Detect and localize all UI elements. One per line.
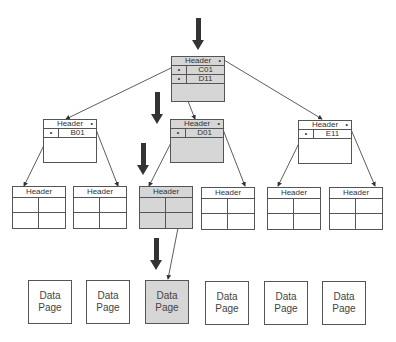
pointer-dot-icon: • (171, 129, 186, 137)
node-key-row: • E11 (299, 130, 351, 139)
arrow-down-icon (150, 260, 162, 270)
data-page-label: Data (333, 291, 354, 302)
data-page: DataPage (28, 280, 72, 324)
leaf-grid (13, 198, 65, 228)
pointer-dot-icon: • (172, 66, 187, 74)
data-page: DataPage (264, 281, 308, 325)
arrow-shaft (155, 92, 160, 114)
data-page-label: Page (155, 302, 178, 313)
node-header-label: Header (44, 120, 96, 128)
leaf-header: Header (268, 188, 320, 199)
node-header-label: Header (171, 120, 223, 128)
data-page: DataPage (322, 281, 366, 325)
node-header-row: Header • (299, 121, 351, 130)
leaf-grid (140, 198, 192, 228)
leaf-node-highlighted: Header (139, 186, 193, 229)
arrow-down-icon (151, 114, 163, 124)
node-key: B01 (59, 129, 96, 137)
data-page-label: Page (96, 302, 119, 313)
leaf-grid (330, 199, 382, 229)
traversal-arrow-leaf (137, 143, 149, 175)
leaf-node: Header (329, 187, 383, 230)
data-page: DataPage (86, 280, 130, 324)
data-page-label: Page (332, 303, 355, 314)
data-page: DataPage (205, 281, 249, 325)
pointer-dot-icon: • (172, 75, 187, 83)
leaf-node: Header (201, 187, 255, 230)
data-page-label: Data (216, 291, 237, 302)
data-page-label: Data (156, 290, 177, 301)
arrow-shaft (141, 143, 146, 165)
leaf-header: Header (13, 187, 65, 198)
root-node: Header • • C01 • D11 (171, 56, 225, 102)
leaf-node: Header (12, 186, 66, 229)
root-header-label: Header (172, 57, 224, 65)
data-page-label: Data (39, 290, 60, 301)
root-key: C01 (187, 66, 224, 74)
traversal-arrow-root (192, 18, 204, 50)
traversal-arrow-data (150, 238, 162, 270)
data-page-label: Page (38, 302, 61, 313)
node-key-row: • B01 (44, 129, 96, 138)
leaf-grid (268, 199, 320, 229)
leaf-node: Header (73, 186, 127, 229)
node-key: D01 (186, 129, 223, 137)
data-page-label: Page (215, 303, 238, 314)
pointer-dot-icon: • (218, 120, 220, 128)
intermediate-node-e11: Header • • E11 (298, 120, 352, 164)
node-header-label: Header (299, 121, 351, 129)
leaf-header: Header (140, 187, 192, 198)
pointer-dot-icon: • (91, 120, 93, 128)
arrow-down-icon (192, 40, 204, 50)
leaf-header: Header (330, 188, 382, 199)
node-key: E11 (314, 130, 351, 138)
data-page-label: Data (275, 291, 296, 302)
root-key: D11 (187, 75, 224, 83)
traversal-arrow-intermediate (151, 92, 163, 124)
leaf-grid (202, 199, 254, 229)
root-key-row: • D11 (172, 75, 224, 84)
leaf-grid (74, 198, 126, 228)
intermediate-node-d01: Header • • D01 (170, 119, 224, 163)
data-page-label: Page (274, 303, 297, 314)
leaf-header: Header (74, 187, 126, 198)
arrow-shaft (154, 238, 159, 260)
pointer-dot-icon: • (299, 130, 314, 138)
data-page-highlighted: DataPage (145, 280, 189, 324)
arrow-shaft (196, 18, 201, 40)
pointer-dot-icon: • (44, 129, 59, 137)
leaf-node: Header (267, 187, 321, 230)
pointer-dot-icon: • (346, 121, 348, 129)
pointer-dot-icon: • (219, 57, 221, 65)
arrow-down-icon (137, 165, 149, 175)
data-page-label: Data (97, 290, 118, 301)
intermediate-node-b01: Header • • B01 (43, 119, 97, 163)
leaf-header: Header (202, 188, 254, 199)
node-key-row: • D01 (171, 129, 223, 138)
